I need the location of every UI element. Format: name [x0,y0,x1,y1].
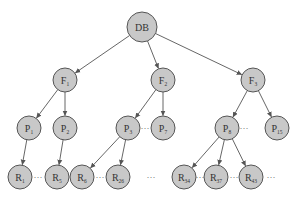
ellipsis-marker: ··· [34,172,43,182]
node-r26: R26 [106,165,130,189]
edge-arrow-p8-to-r34 [192,137,219,168]
node-r5: R5 [45,165,69,189]
edge-arrow-p2-to-r5 [59,140,63,165]
node-f3: F3 [241,68,265,92]
ellipsis-marker: ··· [141,123,150,133]
edges-layer [22,34,271,168]
node-f2: F2 [151,68,175,92]
hierarchy-tree-diagram: DBF1F2F3P1P2P3P7P8P15R1R5R6R26R34R37R43 … [0,0,295,200]
ellipsis-marker: ··· [240,123,249,133]
ellipsis-marker: ··· [96,172,105,182]
node-p8: P8 [215,116,239,140]
node-r34: R34 [172,165,196,189]
node-r6: R6 [70,165,94,189]
edge-arrow-p8-to-r43 [232,139,245,166]
edge-arrow-p3-to-r6 [91,137,120,168]
edge-arrow-p3-to-r26 [121,140,126,165]
edge-arrow-db-to-f2 [148,41,159,69]
node-p15: P15 [265,116,289,140]
node-label: DB [135,22,149,33]
edge-arrow-db-to-f3 [156,34,242,75]
node-p7: P7 [151,116,175,140]
node-p3: P3 [116,116,140,140]
node-r43: R43 [239,165,263,189]
node-f1: F1 [53,68,77,92]
edge-arrow-p8-to-r37 [219,140,225,165]
edge-arrow-f1-to-p1 [37,90,58,118]
edge-arrow-f3-to-p15 [258,91,271,117]
ellipsis-marker: ··· [267,172,276,182]
edge-arrow-p1-to-r1 [22,140,27,165]
edge-arrow-db-to-f1 [75,36,129,73]
ellipsis-marker: ··· [196,172,205,182]
node-p1: P1 [17,116,41,140]
edge-arrow-f3-to-p8 [233,91,247,117]
node-r1: R1 [8,165,32,189]
node-db: DB [127,12,157,42]
node-p2: P2 [53,116,77,140]
edge-arrow-f2-to-p3 [135,90,156,118]
ellipsis-marker: ··· [147,172,156,182]
ellipsis-marker: ··· [230,172,239,182]
node-r37: R37 [204,165,228,189]
